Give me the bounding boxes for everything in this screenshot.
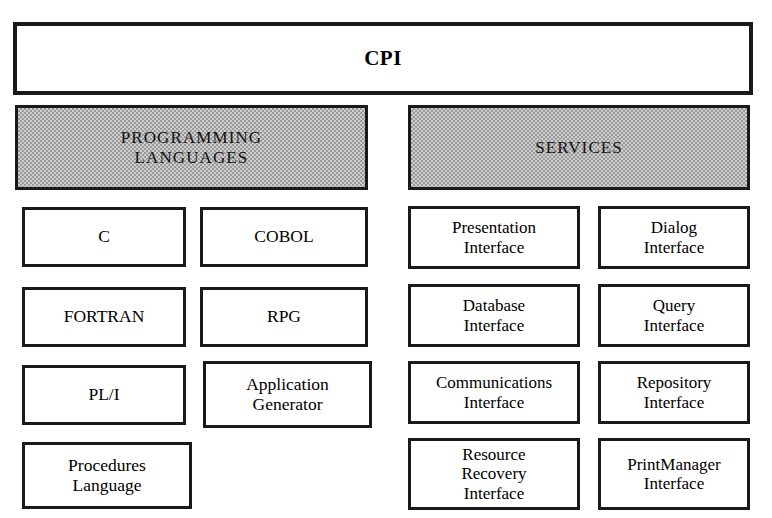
box-printmanager-interface: PrintManager Interface [598, 438, 750, 510]
box-communications-interface-label: Communications Interface [432, 373, 556, 411]
box-pl-i-label: PL/I [84, 385, 123, 405]
group-header-services: SERVICES [408, 105, 750, 190]
box-rpg: RPG [200, 287, 368, 347]
group-header-programming-languages: PROGRAMMING LANGUAGES [15, 105, 368, 190]
box-application-generator: Application Generator [203, 361, 372, 428]
box-procedures-language: Procedures Language [22, 442, 192, 509]
box-presentation-interface: Presentation Interface [408, 206, 580, 269]
box-repository-interface: Repository Interface [598, 361, 750, 424]
box-procedures-language-label: Procedures Language [64, 456, 150, 495]
group-header-services-label: SERVICES [531, 138, 627, 157]
box-database-interface: Database Interface [408, 284, 580, 347]
cpi-title-label: CPI [360, 47, 406, 71]
box-query-interface-label: Query Interface [640, 296, 708, 334]
cpi-title-box: CPI [13, 22, 753, 95]
box-fortran-label: FORTRAN [60, 307, 149, 327]
box-c-label: C [94, 227, 114, 247]
box-fortran: FORTRAN [22, 287, 186, 347]
box-pl-i: PL/I [22, 365, 186, 425]
box-printmanager-interface-label: PrintManager Interface [623, 455, 724, 493]
cpi-architecture-diagram: CPI PROGRAMMING LANGUAGES SERVICES C COB… [0, 0, 772, 518]
box-communications-interface: Communications Interface [408, 361, 580, 424]
box-c: C [22, 207, 186, 267]
box-database-interface-label: Database Interface [459, 296, 529, 334]
box-repository-interface-label: Repository Interface [633, 373, 716, 411]
box-query-interface: Query Interface [598, 284, 750, 347]
box-rpg-label: RPG [263, 307, 305, 327]
box-cobol: COBOL [200, 207, 368, 267]
box-presentation-interface-label: Presentation Interface [448, 218, 540, 256]
group-header-programming-languages-label: PROGRAMMING LANGUAGES [117, 128, 267, 166]
box-application-generator-label: Application Generator [242, 375, 333, 414]
box-resource-recovery-interface: Resource Recovery Interface [408, 438, 580, 510]
box-resource-recovery-interface-label: Resource Recovery Interface [457, 445, 530, 502]
box-cobol-label: COBOL [250, 227, 317, 247]
box-dialog-interface: Dialog Interface [598, 206, 750, 269]
box-dialog-interface-label: Dialog Interface [640, 218, 708, 256]
